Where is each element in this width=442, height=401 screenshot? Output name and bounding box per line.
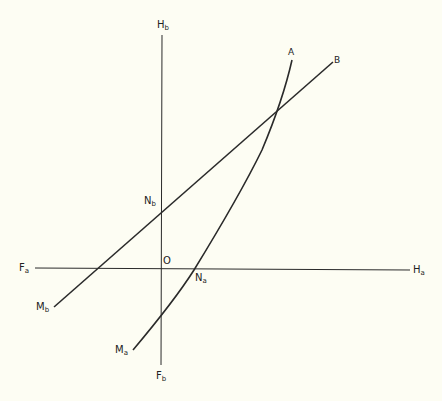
label-hb: Hb: [157, 20, 169, 32]
label-o: O: [163, 256, 171, 266]
label-fb: Fb: [156, 371, 166, 383]
label-b: B: [334, 56, 340, 65]
label-ha: Ha: [413, 265, 425, 277]
curve-ma-a: [133, 60, 292, 350]
label-ma: Ma: [115, 345, 128, 357]
diagram-canvas: [0, 0, 442, 401]
label-mb: Mb: [36, 302, 49, 314]
label-fa: Fa: [19, 263, 29, 275]
label-a: A: [288, 48, 294, 57]
label-nb: Nb: [144, 196, 156, 208]
label-na: Na: [195, 273, 207, 285]
horizontal-axis-line: [35, 268, 410, 270]
